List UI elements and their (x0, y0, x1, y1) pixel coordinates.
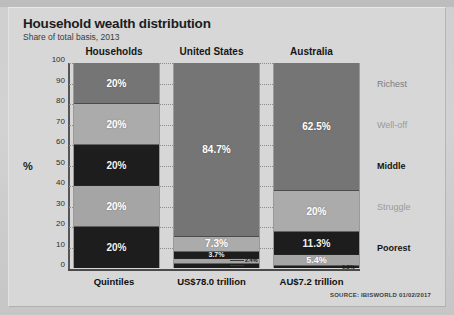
column-header-united-states: United States (164, 46, 259, 57)
column-header-australia: Australia (264, 46, 359, 57)
segment-households-richest: 20% (74, 63, 159, 104)
y-tick-80: 80 (25, 96, 65, 105)
x-label-australia: AU$7.2 trillion (264, 276, 359, 287)
segment-us-welloff: 7.3% (174, 237, 259, 252)
bar-united-states[interactable]: 84.7% 7.3% 3.7% (173, 63, 260, 268)
segment-households-struggle: 20% (74, 186, 159, 227)
plot-area: 20% 20% 20% 20% 20% 84.7% 7.3% 3.7% 62.5… (69, 63, 359, 268)
y-tick-20: 20 (25, 219, 65, 228)
segment-au-welloff: 20% (274, 191, 359, 232)
segment-au-middle: 11.3% (274, 232, 359, 255)
y-tick-90: 90 (25, 76, 65, 85)
category-legend: Richest Well-off Middle Struggle Poorest (369, 63, 454, 268)
legend-item-welloff: Well-off (377, 120, 407, 130)
y-tick-70: 70 (25, 117, 65, 126)
legend-item-middle: Middle (377, 161, 406, 171)
segment-households-middle: 20% (74, 145, 159, 186)
segment-us-richest: 84.7% (174, 63, 259, 237)
chart-card: Household wealth distribution Share of t… (8, 7, 446, 307)
chart-background: Household wealth distribution Share of t… (0, 0, 454, 315)
x-axis-line (68, 269, 360, 271)
legend-item-poorest: Poorest (377, 243, 411, 253)
y-tick-10: 10 (25, 240, 65, 249)
top-edge (0, 0, 454, 7)
bar-australia[interactable]: 62.5% 20% 11.3% 5.4% (273, 63, 360, 268)
y-tick-40: 40 (25, 178, 65, 187)
chart-subtitle: Share of total basis, 2013 (23, 32, 119, 42)
callout-au-poorest: 0.8% (342, 264, 355, 270)
source-note: SOURCE: IBISWORLD 01/02/2017 (330, 292, 431, 298)
legend-item-struggle: Struggle (377, 202, 411, 212)
y-tick-0: 0 (25, 260, 65, 269)
bar-households[interactable]: 20% 20% 20% 20% 20% (73, 63, 160, 268)
y-axis-unit-label: % (23, 160, 33, 172)
x-label-united-states: US$78.0 trillion (164, 276, 259, 287)
page-title: Household wealth distribution (23, 16, 211, 31)
segment-households-welloff: 20% (74, 104, 159, 145)
leader-line-us-struggle (230, 260, 244, 261)
leader-line-us-poorest (230, 265, 244, 266)
y-tick-30: 30 (25, 199, 65, 208)
segment-au-richest: 62.5% (274, 63, 359, 191)
callout-us-poorest: 1.9% (245, 263, 258, 269)
y-tick-100: 100 (25, 55, 65, 64)
segment-households-poorest: 20% (74, 227, 159, 268)
legend-item-richest: Richest (377, 79, 407, 89)
column-header-households: Households (69, 46, 159, 57)
x-label-households: Quintiles (69, 276, 159, 287)
y-tick-60: 60 (25, 137, 65, 146)
